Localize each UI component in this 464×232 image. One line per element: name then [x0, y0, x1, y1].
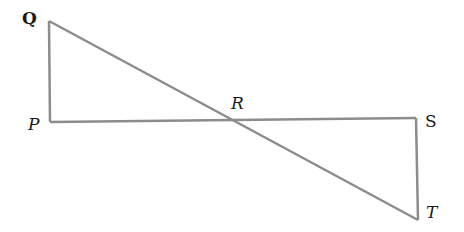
diagram-lines: [0, 0, 464, 232]
geometry-diagram: Q P R S T: [0, 0, 464, 232]
label-q: Q: [22, 10, 37, 27]
label-t: T: [426, 204, 437, 221]
label-s: S: [425, 113, 437, 130]
label-p: P: [28, 116, 39, 133]
segment-qp: [49, 21, 50, 122]
segment-st: [416, 118, 418, 220]
label-r: R: [231, 95, 244, 112]
